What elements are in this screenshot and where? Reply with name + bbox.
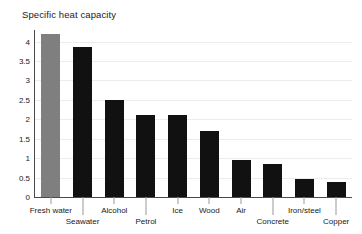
x-axis-label-concrete: Concrete: [257, 217, 289, 226]
x-axis-label-iron-steel: Iron/steel: [288, 206, 321, 215]
x-axis-label-air: Air: [236, 206, 246, 215]
bar-copper: [327, 182, 346, 197]
x-axis-tick-mark: [336, 197, 337, 215]
x-axis-tick-mark: [177, 197, 178, 204]
x-axis-label-seawater: Seawater: [66, 217, 100, 226]
x-axis-category-labels: Fresh waterSeawaterAlcoholPetrolIceWoodA…: [0, 197, 362, 234]
x-axis-label-ice: Ice: [172, 206, 183, 215]
x-axis-label-fresh-water: Fresh water: [30, 206, 72, 215]
bar-ice: [168, 115, 187, 197]
y-axis-tick-label: 2.5: [19, 95, 30, 104]
x-axis-tick-mark: [114, 197, 115, 204]
x-axis-tick-mark: [304, 197, 305, 204]
bar-alcohol: [105, 100, 124, 197]
x-axis-tick-mark: [145, 197, 146, 215]
chart-container: Specific heat capacity 00.511.522.533.54…: [0, 0, 362, 234]
x-axis-tick-mark: [209, 197, 210, 204]
bar-air: [232, 160, 251, 197]
bar-concrete: [263, 164, 282, 197]
y-axis-tick-label: 2: [26, 115, 30, 124]
x-axis-label-wood: Wood: [199, 206, 220, 215]
bar-petrol: [136, 115, 155, 197]
y-axis-tick-label: 3.5: [19, 56, 30, 65]
x-axis-tick-mark: [82, 197, 83, 215]
bar-seawater: [73, 47, 92, 197]
x-axis-label-copper: Copper: [323, 217, 349, 226]
x-axis-tick-mark: [50, 197, 51, 204]
y-axis-tick-label: 0.5: [19, 173, 30, 182]
x-axis-tick-mark: [272, 197, 273, 215]
y-axis-tick-label: 1: [26, 154, 30, 163]
x-axis-label-petrol: Petrol: [135, 217, 156, 226]
y-axis-tick-label: 4: [26, 37, 30, 46]
x-axis-label-alcohol: Alcohol: [101, 206, 127, 215]
y-axis-tick-label: 1.5: [19, 134, 30, 143]
chart-title: Specific heat capacity: [22, 9, 116, 20]
bar-fresh-water: [41, 34, 60, 197]
bar-iron-steel: [295, 179, 314, 197]
bars-group: [35, 26, 352, 197]
x-axis-tick-mark: [241, 197, 242, 204]
y-axis-tick-label: 3: [26, 76, 30, 85]
bar-wood: [200, 131, 219, 197]
